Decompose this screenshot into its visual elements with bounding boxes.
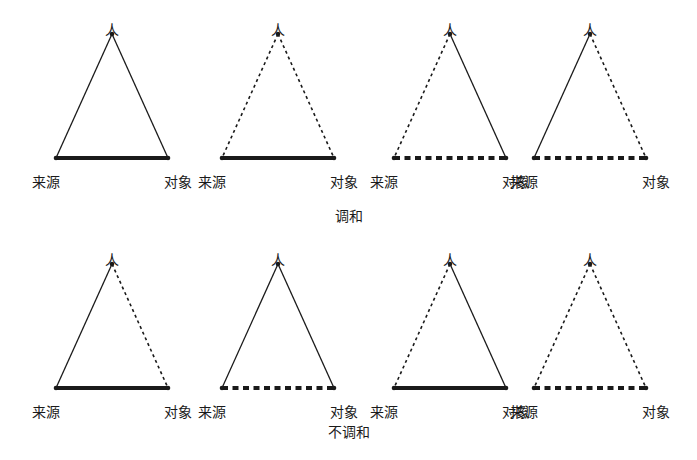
triad-harmony-4: 人来源对象 — [510, 8, 670, 208]
edge-person-source-disharmony-2 — [222, 264, 278, 388]
base-label-source-disharmony-4: 来源 — [510, 404, 538, 420]
vertex-object-harmony-1 — [166, 156, 171, 161]
apex-label-person-harmony-4: 人 — [570, 22, 610, 38]
base-label-object-harmony-2: 对象 — [330, 174, 358, 190]
base-label-source-disharmony-3: 来源 — [370, 404, 398, 420]
vertex-object-harmony-3 — [504, 156, 509, 161]
edge-person-object-harmony-4 — [590, 34, 646, 158]
base-label-object-disharmony-2: 对象 — [330, 404, 358, 420]
vertex-source-harmony-2 — [220, 156, 225, 161]
apex-label-person-disharmony-3: 人 — [430, 252, 470, 268]
triad-disharmony-2: 人来源对象 — [198, 238, 358, 438]
row-harmony: 人来源对象人来源对象人来源对象人来源对象 — [0, 8, 697, 223]
vertex-object-harmony-2 — [332, 156, 337, 161]
apex-label-person-disharmony-1: 人 — [92, 252, 132, 268]
edge-person-source-disharmony-4 — [534, 264, 590, 388]
vertex-source-disharmony-1 — [54, 386, 59, 391]
edge-person-source-disharmony-3 — [394, 264, 450, 388]
apex-label-person-harmony-3: 人 — [430, 22, 470, 38]
edge-person-object-harmony-2 — [278, 34, 334, 158]
vertex-object-harmony-4 — [644, 156, 649, 161]
triad-disharmony-1: 人来源对象 — [32, 238, 192, 438]
vertex-object-disharmony-3 — [504, 386, 509, 391]
base-label-object-harmony-4: 对象 — [642, 174, 670, 190]
vertex-source-disharmony-2 — [220, 386, 225, 391]
triad-harmony-3: 人来源对象 — [370, 8, 530, 208]
base-label-object-harmony-1: 对象 — [164, 174, 192, 190]
base-label-source-harmony-3: 来源 — [370, 174, 398, 190]
edge-person-source-harmony-1 — [56, 34, 112, 158]
vertex-source-disharmony-4 — [532, 386, 537, 391]
edge-person-object-disharmony-3 — [450, 264, 506, 388]
vertex-object-disharmony-1 — [166, 386, 171, 391]
base-label-source-disharmony-2: 来源 — [198, 404, 226, 420]
edge-person-object-harmony-1 — [112, 34, 168, 158]
triad-disharmony-3: 人来源对象 — [370, 238, 530, 438]
vertex-source-harmony-1 — [54, 156, 59, 161]
triad-harmony-1: 人来源对象 — [32, 8, 192, 208]
vertex-source-harmony-4 — [532, 156, 537, 161]
base-label-object-disharmony-1: 对象 — [164, 404, 192, 420]
row-caption-harmony: 调和 — [0, 207, 697, 225]
row-disharmony: 人来源对象人来源对象人来源对象人来源对象 — [0, 238, 697, 453]
apex-label-person-harmony-2: 人 — [258, 22, 298, 38]
vertex-source-harmony-3 — [392, 156, 397, 161]
apex-label-person-disharmony-2: 人 — [258, 252, 298, 268]
base-label-source-harmony-2: 来源 — [198, 174, 226, 190]
vertex-object-disharmony-2 — [332, 386, 337, 391]
edge-person-object-harmony-3 — [450, 34, 506, 158]
edge-person-source-harmony-2 — [222, 34, 278, 158]
apex-label-person-harmony-1: 人 — [92, 22, 132, 38]
edge-person-object-disharmony-2 — [278, 264, 334, 388]
edge-person-source-harmony-4 — [534, 34, 590, 158]
base-label-source-harmony-1: 来源 — [32, 174, 60, 190]
apex-label-person-disharmony-4: 人 — [570, 252, 610, 268]
vertex-source-disharmony-3 — [392, 386, 397, 391]
triad-disharmony-4: 人来源对象 — [510, 238, 670, 438]
base-label-source-disharmony-1: 来源 — [32, 404, 60, 420]
vertex-object-disharmony-4 — [644, 386, 649, 391]
edge-person-object-disharmony-4 — [590, 264, 646, 388]
triad-harmony-2: 人来源对象 — [198, 8, 358, 208]
base-label-source-harmony-4: 来源 — [510, 174, 538, 190]
edge-person-source-harmony-3 — [394, 34, 450, 158]
edge-person-source-disharmony-1 — [56, 264, 112, 388]
edge-person-object-disharmony-1 — [112, 264, 168, 388]
row-caption-disharmony: 不调和 — [0, 423, 697, 441]
balance-theory-figure: 人来源对象人来源对象人来源对象人来源对象 人来源对象人来源对象人来源对象人来源对… — [0, 0, 697, 460]
base-label-object-disharmony-4: 对象 — [642, 404, 670, 420]
